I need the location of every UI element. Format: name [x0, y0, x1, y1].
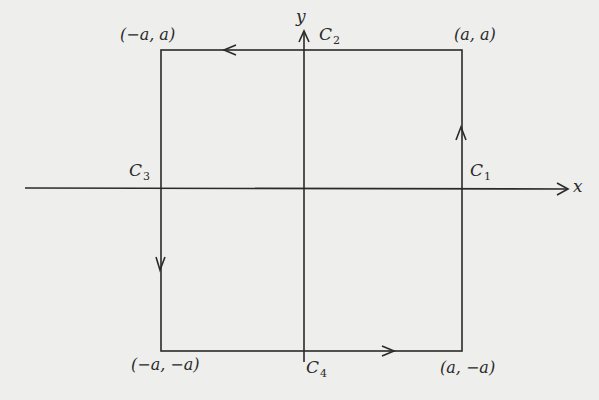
corner-label-top-right: (a, a)	[454, 27, 496, 43]
contour-diagram: y x (−a, a) (a, a) (−a, −a) (a, −a) C1 C…	[0, 0, 599, 400]
segment-c3-subscript: 3	[143, 170, 150, 183]
segment-label-c4: C4	[306, 359, 327, 379]
segment-label-c2: C2	[319, 26, 340, 46]
segment-label-c1: C1	[470, 162, 491, 182]
segment-c4-name: C	[306, 357, 319, 377]
x-axis-label: x	[573, 178, 583, 195]
segment-c4-subscript: 4	[320, 367, 327, 380]
segment-c2-name: C	[319, 24, 332, 44]
segment-c1-subscript: 1	[484, 170, 491, 183]
corner-label-bottom-right: (a, −a)	[440, 360, 495, 376]
square-contour	[161, 50, 462, 351]
segment-c3-name: C	[129, 160, 142, 180]
c1-up-arrow-icon	[456, 127, 466, 140]
x-axis	[25, 188, 568, 189]
segment-c1-name: C	[470, 160, 483, 180]
corner-label-top-left: (−a, a)	[120, 27, 175, 43]
diagram-canvas	[0, 0, 599, 400]
corner-label-bottom-left: (−a, −a)	[131, 357, 200, 373]
segment-c2-subscript: 2	[333, 34, 340, 47]
y-axis-label: y	[296, 8, 306, 25]
segment-label-c3: C3	[129, 162, 150, 182]
